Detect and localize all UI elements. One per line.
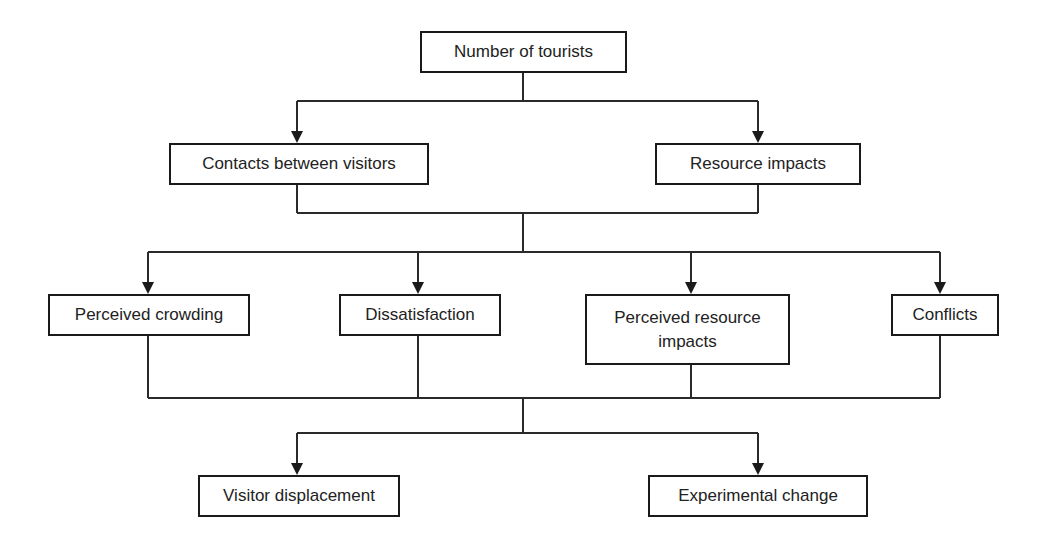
node-number-of-tourists: Number of tourists [420,31,627,73]
node-label: Visitor displacement [223,484,375,508]
node-perceived-crowding: Perceived crowding [48,294,250,336]
node-perceived-resource-impacts: Perceived resource impacts [585,294,790,365]
node-label-line-1: Perceived resource [614,306,760,330]
node-label: Perceived crowding [75,303,223,327]
flowchart-diagram: Number of tourists Contacts between visi… [0,0,1046,554]
arrowhead-icon [752,463,764,475]
node-label-line-2: impacts [658,330,717,354]
node-conflicts: Conflicts [891,294,999,336]
connector-lines [0,0,1046,554]
node-visitor-displacement: Visitor displacement [198,475,400,517]
node-experimental-change: Experimental change [648,475,868,517]
arrowhead-icon [291,131,303,143]
arrowhead-icon [685,282,697,294]
node-label: Dissatisfaction [365,303,475,327]
node-dissatisfaction: Dissatisfaction [339,294,501,336]
node-label: Resource impacts [690,152,826,176]
arrowhead-icon [412,282,424,294]
node-label: Conflicts [912,303,977,327]
arrowhead-icon [752,131,764,143]
node-label: Experimental change [678,484,838,508]
node-label: Contacts between visitors [202,152,396,176]
node-resource-impacts: Resource impacts [655,143,861,185]
node-contacts-between-visitors: Contacts between visitors [169,143,429,185]
node-label: Number of tourists [454,40,593,64]
arrowhead-icon [142,282,154,294]
arrowhead-icon [934,282,946,294]
arrowhead-icon [291,463,303,475]
